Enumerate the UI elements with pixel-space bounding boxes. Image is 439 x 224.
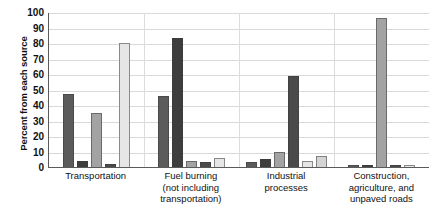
plot-area [48,13,429,168]
x-category-label-line: Construction, [336,170,427,182]
bar [63,94,74,167]
x-category-label-line: (not including [145,182,236,194]
bar [200,162,211,167]
bar [158,96,169,167]
bar-group [49,13,144,167]
x-axis-category-labels: TransportationFuel burning(not including… [48,170,429,205]
bar [390,165,401,167]
bar-group [144,13,239,167]
x-category-label: Construction,agriculture, andunpaved roa… [334,170,429,205]
bar [404,165,415,167]
bar [186,161,197,167]
bar [91,113,102,167]
bar [302,161,313,167]
bar [246,162,257,167]
x-category-label-line: processes [241,182,332,194]
bar [316,156,327,167]
y-tick-label: 0 [20,163,44,173]
y-tick-label: 30 [20,117,44,127]
bar [105,164,116,167]
y-tick-label: 40 [20,101,44,111]
x-category-label-line: unpaved roads [336,193,427,205]
bar [119,43,130,167]
y-tick-label: 10 [20,148,44,158]
y-tick-label: 100 [20,8,44,18]
bar [376,18,387,167]
bar [172,38,183,167]
bar [77,161,88,167]
bar [214,158,225,167]
y-tick-label: 20 [20,132,44,142]
bar [288,76,299,167]
y-tick-label: 60 [20,70,44,80]
bar-chart: Percent from each source 100908070605040… [0,0,439,224]
bar [274,152,285,168]
y-axis-tick-labels: 1009080706050403020100 [20,8,44,172]
bar-group [239,13,334,167]
x-category-label-line: Transportation [50,170,141,182]
bar [260,159,271,167]
bar-groups [49,13,429,167]
y-tick-label: 70 [20,55,44,65]
y-tick-label: 90 [20,24,44,34]
bar [348,165,359,167]
bar-group [334,13,429,167]
bar [362,165,373,167]
x-category-label-line: Industrial [241,170,332,182]
x-category-label-line: transportation) [145,193,236,205]
x-category-label-line: Fuel burning [145,170,236,182]
x-category-label-line: agriculture, and [336,182,427,194]
x-category-label: Transportation [48,170,143,205]
x-category-label: Industrialprocesses [239,170,334,205]
y-tick-label: 80 [20,39,44,49]
y-tick-label: 50 [20,86,44,96]
x-category-label: Fuel burning(not includingtransportation… [143,170,238,205]
